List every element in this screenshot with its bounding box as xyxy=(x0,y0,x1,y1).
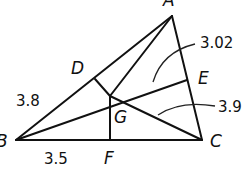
label-c: C xyxy=(210,131,222,151)
triangle-diagram: A B C D E F G 3.8 3.5 3.02 3.9 xyxy=(0,0,250,174)
measure-bf: 3.5 xyxy=(44,150,68,168)
label-b: B xyxy=(0,131,8,151)
leader-3-9 xyxy=(158,104,215,115)
label-e: E xyxy=(198,68,209,88)
segment-bg-e xyxy=(16,80,187,140)
measure-ge: 3.02 xyxy=(200,34,233,52)
leader-3-02 xyxy=(153,44,195,82)
segment-dg xyxy=(95,79,110,96)
measure-gc: 3.9 xyxy=(218,98,242,116)
measure-bd: 3.8 xyxy=(16,92,40,110)
side-ab xyxy=(16,16,172,140)
label-f: F xyxy=(104,148,114,168)
label-g: G xyxy=(114,107,127,127)
label-a: A xyxy=(162,0,175,10)
segment-ag xyxy=(110,16,172,96)
label-d: D xyxy=(71,58,84,78)
